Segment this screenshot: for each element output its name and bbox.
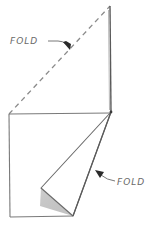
square-left-edge — [9, 114, 10, 217]
square-bottom-edge — [10, 216, 73, 217]
right-vertical-edge — [110, 6, 111, 113]
top-fold-callout: FOLD — [10, 36, 71, 50]
upper-flap — [9, 6, 111, 114]
flap-corner-dot — [110, 111, 113, 114]
top-fold-arrow-icon — [63, 41, 71, 50]
bottom-fold-label: FOLD — [117, 177, 145, 187]
square-top-edge — [9, 113, 111, 114]
right-edge-shadow — [109, 10, 110, 110]
folded-flap — [40, 111, 112, 216]
fold-diagram: FOLD FOLD — [0, 0, 161, 234]
dashed-fold-line — [9, 6, 110, 114]
top-fold-label: FOLD — [10, 36, 38, 46]
bottom-fold-leader-line — [101, 175, 115, 181]
top-fold-leader-line — [48, 41, 66, 44]
bottom-fold-callout: FOLD — [95, 170, 145, 187]
